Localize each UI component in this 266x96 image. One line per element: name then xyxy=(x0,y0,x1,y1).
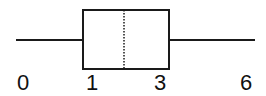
interquartile-box xyxy=(83,10,169,69)
q1-label: 1 xyxy=(86,70,98,96)
max-label: 6 xyxy=(240,70,252,96)
box-plot xyxy=(0,0,266,96)
min-label: 0 xyxy=(17,70,29,96)
q3-label: 3 xyxy=(154,70,166,96)
